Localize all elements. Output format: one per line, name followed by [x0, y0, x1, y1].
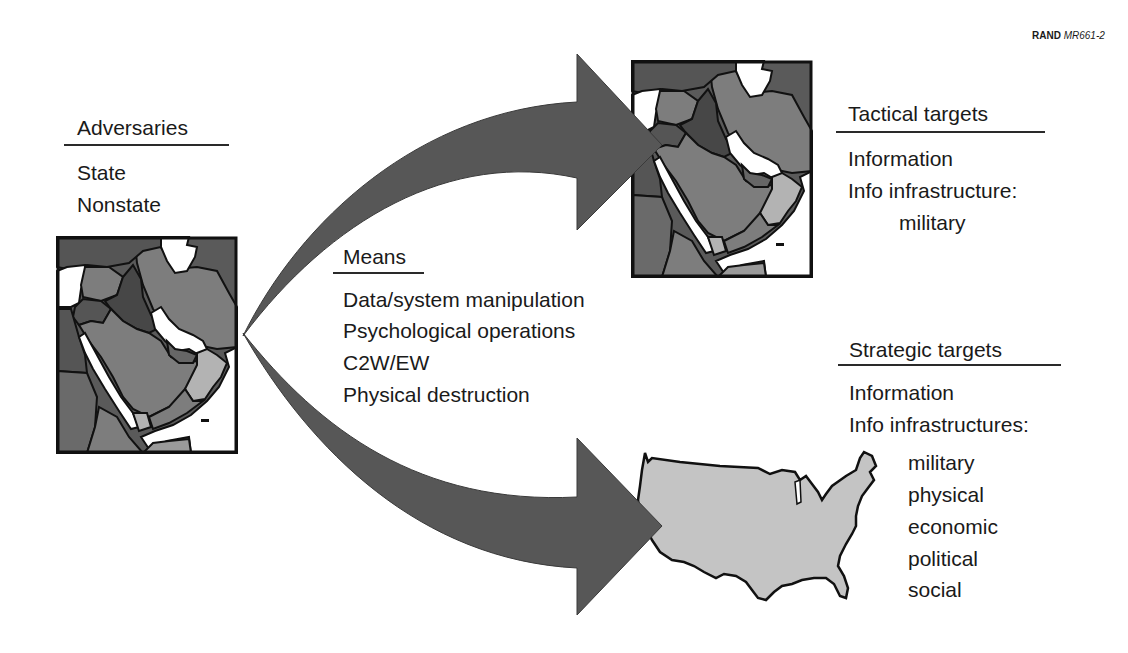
top-right-middle-east-map — [632, 61, 812, 277]
adversaries-rule — [64, 144, 229, 146]
adversaries-heading: Adversaries — [77, 117, 188, 138]
usa-map — [638, 452, 876, 600]
means-item: Data/system manipulation — [343, 289, 585, 310]
tactical-subitem: military — [899, 212, 966, 233]
strategic-targets-heading: Strategic targets — [849, 339, 1002, 360]
means-rule — [333, 272, 424, 274]
tactical-targets-rule — [836, 131, 1045, 133]
strategic-item: Information — [849, 382, 954, 403]
strategic-subitem: military — [908, 452, 975, 473]
arrow-to-strategic-targets[interactable] — [243, 333, 662, 615]
credit-org: RAND — [1032, 30, 1061, 41]
means-item: Physical destruction — [343, 384, 530, 405]
means-heading: Means — [343, 246, 406, 267]
strategic-subitem: economic — [908, 516, 998, 537]
adversary-item: State — [77, 162, 126, 183]
credit-doc-id: MR661-2 — [1064, 30, 1105, 41]
left-middle-east-map — [57, 237, 237, 453]
strategic-subitem: physical — [908, 484, 984, 505]
means-item: Psychological operations — [343, 320, 575, 341]
tactical-item: Information — [848, 148, 953, 169]
figure-credit: RAND MR661-2 — [1032, 30, 1105, 41]
strategic-item: Info infrastructures: — [849, 414, 1029, 435]
means-item: C2W/EW — [343, 352, 429, 373]
tactical-targets-heading: Tactical targets — [848, 103, 988, 124]
strategic-subitem: social — [908, 579, 962, 600]
strategic-targets-rule — [838, 364, 1061, 366]
tactical-item: Info infrastructure: — [848, 180, 1017, 201]
adversary-item: Nonstate — [77, 194, 161, 215]
strategic-subitem: political — [908, 548, 978, 569]
